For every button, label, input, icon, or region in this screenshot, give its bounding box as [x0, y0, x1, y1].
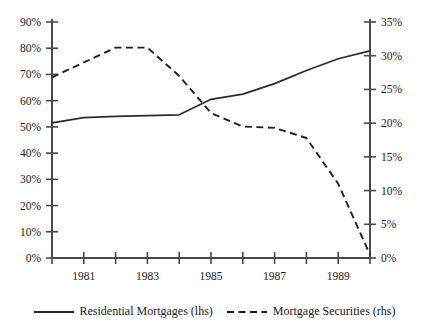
- svg-text:25%: 25%: [381, 83, 403, 95]
- svg-text:15%: 15%: [381, 151, 403, 163]
- x-axis-ticks: 19811983198519871989: [52, 252, 370, 282]
- svg-text:1989: 1989: [327, 270, 350, 282]
- legend-dashed-line-icon: [227, 307, 267, 317]
- svg-text:0%: 0%: [26, 252, 42, 264]
- legend-item-mortgage-securities: Mortgage Securities (rhs): [227, 304, 396, 319]
- svg-text:5%: 5%: [381, 218, 397, 230]
- svg-text:70%: 70%: [20, 68, 42, 80]
- svg-text:20%: 20%: [20, 200, 42, 212]
- legend-item-residential-mortgages: Residential Mortgages (lhs): [34, 304, 213, 319]
- svg-text:40%: 40%: [20, 147, 42, 159]
- svg-text:1985: 1985: [200, 270, 223, 282]
- legend-label-residential-mortgages: Residential Mortgages (lhs): [80, 304, 213, 319]
- svg-text:10%: 10%: [20, 226, 42, 238]
- svg-text:50%: 50%: [20, 121, 42, 133]
- svg-text:60%: 60%: [20, 95, 42, 107]
- svg-text:80%: 80%: [20, 42, 42, 54]
- svg-text:10%: 10%: [381, 185, 403, 197]
- series-line-mortgage-securities: [52, 48, 370, 255]
- svg-text:35%: 35%: [381, 16, 403, 28]
- series-line-residential-mortgages: [52, 51, 370, 123]
- legend-label-mortgage-securities: Mortgage Securities (rhs): [273, 304, 396, 319]
- svg-text:30%: 30%: [381, 50, 403, 62]
- svg-text:0%: 0%: [381, 252, 397, 264]
- legend-solid-line-icon: [34, 307, 74, 317]
- svg-text:30%: 30%: [20, 173, 42, 185]
- svg-text:90%: 90%: [20, 16, 42, 28]
- svg-text:1981: 1981: [72, 270, 95, 282]
- line-chart-plot: 0%10%20%30%40%50%60%70%80%90% 0%5%10%15%…: [0, 0, 429, 325]
- svg-text:1987: 1987: [263, 270, 286, 282]
- svg-text:20%: 20%: [381, 117, 403, 129]
- chart-container: 0%10%20%30%40%50%60%70%80%90% 0%5%10%15%…: [0, 0, 429, 325]
- chart-legend: Residential Mortgages (lhs) Mortgage Sec…: [0, 304, 429, 319]
- svg-text:1983: 1983: [136, 270, 159, 282]
